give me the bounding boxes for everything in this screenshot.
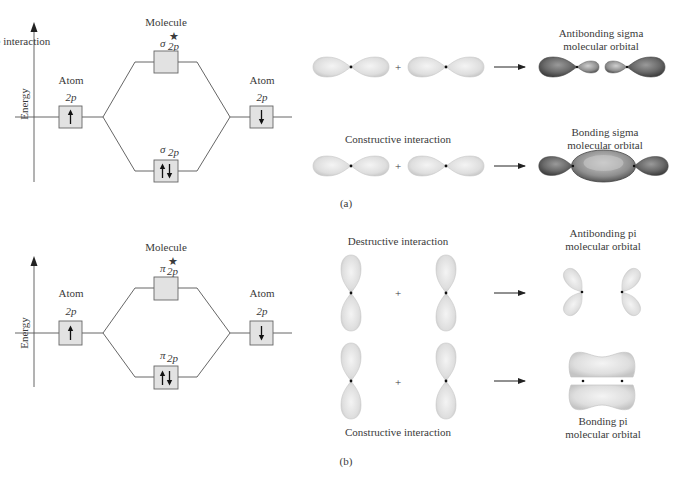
p-orbital-horizontal — [313, 156, 389, 176]
constructive-interaction-label: Constructive interaction — [345, 426, 451, 438]
p-orbital-vertical — [436, 343, 456, 419]
bonding-sigma-label-line1: Bonding sigma — [572, 126, 639, 138]
antibonding-pi-label-line1: Antibonding pi — [570, 227, 637, 239]
connector-left-lower — [103, 117, 154, 171]
bonding-orbital-label: σ — [160, 143, 166, 155]
antibonding-orbital-box — [154, 277, 178, 300]
molecule-label: Molecule — [145, 16, 187, 28]
connector-left-lower — [103, 333, 154, 377]
p-orbital-horizontal — [313, 57, 389, 77]
connector-right-upper — [178, 288, 250, 333]
p-orbital-vertical — [341, 343, 361, 419]
left-atom-label: Atom — [58, 74, 84, 86]
panel-caption-a: (a) — [340, 197, 353, 210]
bonding-sigma-label-line2: molecular orbital — [567, 139, 642, 151]
antibonding-sigma-label-line1: Antibonding sigma — [559, 27, 644, 39]
bonding-orbital-box — [154, 366, 178, 389]
plus-sign: + — [395, 376, 401, 388]
plus-sign: + — [395, 160, 401, 172]
destructive-interaction-label: Destructive interaction — [0, 35, 51, 47]
right-atom-orbital-label: 2p — [257, 91, 269, 103]
bonding-orbital-subscript: 2p — [168, 146, 180, 158]
bonding-pi-label-line2: molecular orbital — [565, 428, 640, 440]
energy-axis-arrow-icon — [31, 256, 38, 266]
bonding-pi-label-line1: Bonding pi — [578, 415, 627, 427]
energy-axis-arrow-icon — [31, 22, 38, 32]
right-atom-orbital-label: 2p — [257, 305, 269, 317]
p-orbital-vertical — [436, 255, 456, 331]
sigma-interactions: Destructive interaction + Antibonding si… — [0, 27, 668, 210]
antibonding-orbital-label: σ — [160, 37, 166, 49]
energy-axis-label: Energy — [18, 88, 30, 120]
antibonding-orbital-box — [154, 51, 178, 73]
p-orbital-horizontal — [408, 156, 484, 176]
antibonding-star-icon: ★ — [168, 255, 178, 267]
constructive-interaction-label: Constructive interaction — [345, 133, 451, 145]
antibonding-pi-label-line2: molecular orbital — [565, 240, 640, 252]
right-atom-label: Atom — [249, 74, 275, 86]
connector-right-upper — [178, 62, 250, 117]
antibonding-star-icon: ★ — [169, 30, 179, 42]
molecular-orbital-figure: Energy Molecule σ 2p ★ Atom 2p Atom 2p — [0, 0, 687, 478]
destructive-interaction-label: Destructive interaction — [348, 235, 449, 247]
left-atom-label: Atom — [58, 287, 84, 299]
pi-interactions: Destructive interaction + Antibonding pi… — [340, 227, 644, 468]
bonding-pi-orbital — [569, 352, 635, 409]
connector-left-upper — [82, 288, 154, 333]
molecule-label: Molecule — [145, 241, 187, 253]
panel-caption-b: (b) — [340, 455, 353, 468]
plus-sign: + — [395, 61, 401, 73]
bonding-sigma-orbital — [539, 150, 668, 182]
connector-right-lower — [178, 333, 230, 377]
energy-diagram-sigma: Energy Molecule σ 2p ★ Atom 2p Atom 2p — [15, 16, 292, 182]
bonding-orbital-label: π — [160, 349, 166, 361]
bonding-orbital-subscript: 2p — [167, 352, 179, 364]
p-orbital-vertical — [341, 255, 361, 331]
antibonding-pi-orbital — [560, 265, 644, 318]
antibonding-sigma-label-line2: molecular orbital — [563, 40, 638, 52]
p-orbital-horizontal — [408, 57, 484, 77]
antibonding-orbital-label: π — [160, 262, 166, 274]
plus-sign: + — [395, 287, 401, 299]
connector-right-lower — [178, 117, 230, 171]
bonding-orbital-box — [154, 160, 178, 182]
left-atom-orbital-label: 2p — [66, 305, 78, 317]
antibonding-sigma-orbital — [539, 57, 665, 77]
right-atom-label: Atom — [249, 287, 275, 299]
energy-diagram-pi: Energy Molecule π 2p ★ Atom 2p Atom 2p π… — [15, 241, 292, 389]
left-atom-orbital-label: 2p — [66, 91, 78, 103]
connector-left-upper — [82, 62, 154, 117]
